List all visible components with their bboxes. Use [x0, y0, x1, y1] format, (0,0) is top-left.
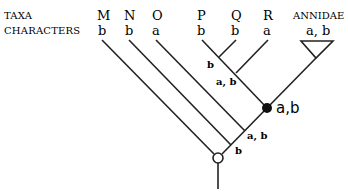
label-r-branch: a, b [216, 76, 236, 88]
branch-m [102, 40, 214, 154]
characters-row-label: CHARACTERS [4, 25, 80, 36]
taxon-p: P [197, 8, 206, 23]
character-p: b [197, 23, 205, 38]
character-q: b [231, 23, 239, 38]
character-n: b [125, 23, 133, 38]
annidae-triangle-icon [301, 41, 333, 58]
label-filled-node: a,b [276, 99, 299, 117]
taxon-r: R [263, 8, 274, 23]
taxon-q: Q [231, 8, 242, 23]
branch-n [129, 40, 231, 145]
character-m: b [98, 23, 106, 38]
taxa-row-label: TAXA [4, 10, 33, 21]
root-node-open-circle-icon [213, 153, 223, 163]
branch-r [236, 40, 268, 73]
character-annidae: a, b [306, 23, 330, 38]
label-n-branch: b [235, 145, 242, 156]
character-r: a [263, 23, 271, 38]
taxon-o: O [152, 8, 163, 23]
taxon-n: N [124, 8, 135, 23]
label-pq-branch: b [207, 59, 214, 70]
taxon-annidae: ANNIDAE [292, 10, 344, 21]
character-o: a [152, 23, 160, 38]
filled-node-icon [262, 103, 272, 113]
branch-q [219, 40, 236, 57]
label-o-branch: a, b [247, 130, 267, 142]
taxon-m: M [97, 8, 110, 23]
cladogram: TAXA CHARACTERS M N O P Q R ANNIDAE b b … [0, 0, 348, 195]
